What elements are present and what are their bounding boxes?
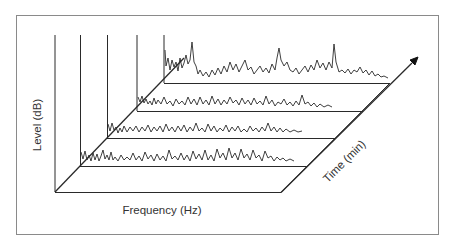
time-axis-label: Time (min) [321, 138, 368, 185]
level-axis-label: Level (dB) [31, 99, 43, 152]
figure-border [17, 16, 439, 235]
floor-plane [55, 83, 390, 193]
time-axis-line [55, 58, 184, 192]
spectra [81, 42, 388, 161]
spectrum-3 [138, 95, 332, 107]
time-arrow-line [281, 63, 412, 193]
waterfall-diagram: Level (dB) Frequency (Hz) Time (min) [0, 0, 455, 251]
spectrum-1 [81, 148, 294, 161]
level-axes [55, 35, 164, 192]
time-axis [55, 57, 418, 193]
frequency-axis-label: Frequency (Hz) [122, 204, 201, 216]
spectrum-4 [165, 42, 388, 78]
spectrum-2 [108, 123, 302, 133]
